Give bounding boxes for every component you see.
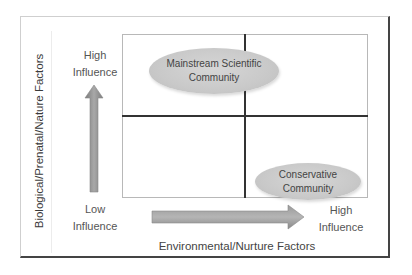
node-mainstream-scientific-community: Mainstream Scientific Community	[149, 48, 279, 94]
arrow-up-icon	[84, 84, 104, 194]
label-line: Influence	[66, 218, 124, 235]
label-line: Low	[66, 201, 124, 218]
label-line: Influence	[66, 64, 124, 81]
x-axis-high-label: High Influence	[312, 202, 370, 236]
arrow-right-icon	[151, 204, 305, 230]
axis-low-label: Low Influence	[66, 201, 124, 235]
label-line: Influence	[312, 219, 370, 236]
label-line: High	[66, 47, 124, 64]
node-label-line: Mainstream Scientific	[166, 57, 261, 71]
node-label-line: Community	[279, 182, 337, 196]
x-axis-title: Environmental/Nurture Factors	[159, 240, 316, 252]
node-label-line: Community	[166, 71, 261, 85]
y-axis-high-label: High Influence	[66, 47, 124, 81]
node-conservative-community: Conservative Community	[255, 163, 361, 200]
node-label-line: Conservative	[279, 168, 337, 182]
y-axis-title: Biological/Prenatal/Nature Factors	[33, 54, 45, 229]
label-line: High	[312, 202, 370, 219]
grid-horizontal-divider	[122, 115, 368, 117]
